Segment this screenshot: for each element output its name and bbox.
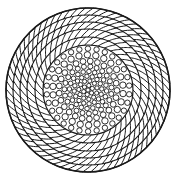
core-wire [116, 60, 121, 65]
core-wire [87, 69, 92, 74]
core-wire [92, 100, 96, 104]
core-wire [103, 94, 108, 99]
core-wire [77, 47, 82, 52]
core-wire [82, 85, 86, 89]
core-wire [95, 91, 99, 95]
core-wire [102, 118, 108, 124]
core-wire [73, 61, 79, 67]
core-wire [101, 55, 107, 61]
core-wire [92, 95, 96, 99]
core-wire [92, 70, 97, 75]
core-wire [68, 56, 74, 62]
core-wire [67, 87, 72, 92]
core-wire [49, 67, 54, 72]
core-wire [85, 129, 90, 134]
core-wire [102, 49, 107, 54]
core-wire [117, 74, 123, 80]
core-wire [76, 72, 81, 77]
core-wire [44, 83, 49, 88]
core-wire [88, 64, 93, 69]
core-wire [87, 97, 91, 101]
core-wire [121, 108, 126, 113]
cable-cross-section-figure [0, 0, 178, 180]
core-wire [125, 100, 130, 105]
core-wire [61, 61, 67, 67]
core-wire [93, 110, 98, 115]
core-wire [109, 113, 115, 119]
core-wire [69, 104, 74, 109]
core-wire [88, 79, 92, 83]
strand-cell-divider [24, 38, 25, 49]
core-wire [68, 81, 73, 86]
core-wire [94, 121, 100, 127]
core-wire [62, 70, 68, 76]
core-wire [65, 99, 70, 104]
core-wire [79, 116, 85, 122]
core-wire [82, 101, 86, 105]
core-wire [77, 87, 81, 91]
core-wire [120, 90, 126, 96]
core-wire [52, 100, 58, 106]
core-wire [121, 67, 126, 72]
core-wire [91, 106, 96, 111]
core-wire [90, 75, 94, 79]
core-wire [84, 52, 90, 58]
core-wire [89, 91, 93, 95]
core-wire [85, 106, 90, 111]
core-wire [87, 58, 93, 64]
core-wire [104, 89, 109, 94]
core-wire [79, 105, 84, 110]
core-wire [56, 90, 62, 96]
core-wire [55, 67, 61, 73]
core-wire [82, 89, 86, 93]
core-wire [83, 79, 87, 83]
core-wire [69, 125, 74, 130]
core-wire [87, 102, 91, 106]
core-wire [85, 122, 91, 128]
core-wire [125, 74, 130, 79]
core-wire [49, 108, 54, 113]
core-wire [69, 118, 75, 124]
core-wire [87, 116, 93, 122]
core-wire [118, 99, 124, 105]
core-wire [63, 93, 68, 98]
core-wire [74, 108, 79, 113]
core-wire [55, 60, 60, 65]
core-wire [101, 78, 106, 83]
core-wire [90, 86, 94, 90]
core-wire [46, 75, 51, 80]
core-wire [81, 64, 86, 69]
core-wire [114, 106, 120, 112]
core-wire [104, 83, 109, 88]
core-wire [72, 89, 76, 93]
core-wire [104, 73, 109, 78]
core-wire [99, 92, 103, 96]
core-wire [62, 87, 67, 92]
core-wire [56, 83, 62, 89]
core-wire [100, 112, 106, 118]
core-wire [52, 75, 58, 81]
core-wire [80, 110, 85, 115]
core-wire [85, 46, 90, 51]
core-wire [74, 94, 78, 98]
core-wire [94, 60, 100, 66]
core-wire [75, 66, 80, 71]
core-wire [114, 88, 120, 94]
core-wire [63, 80, 68, 85]
core-wire [61, 121, 66, 126]
core-wire [102, 125, 107, 130]
core-wire [120, 82, 126, 88]
core-wire [113, 80, 119, 86]
core-wire [94, 47, 99, 52]
core-wire [46, 100, 51, 105]
core-wire [55, 115, 60, 120]
core-wire [110, 121, 115, 126]
core-wire [98, 82, 102, 86]
core-wire [78, 92, 82, 96]
core-wire [95, 86, 99, 90]
core-wire [62, 114, 68, 120]
core-wire [61, 54, 66, 59]
core-wire [116, 115, 121, 120]
cross-section-diagram [0, 0, 178, 180]
core-wire [100, 87, 104, 91]
